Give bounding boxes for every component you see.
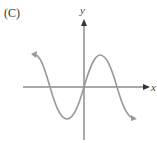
x-axis-arrow-icon — [143, 84, 150, 90]
x-axis-label: x — [150, 81, 156, 93]
y-axis-arrow-icon — [81, 19, 87, 26]
curve-left-arrow-icon — [31, 51, 37, 58]
chart-area: y x — [0, 0, 157, 143]
curve-right-arrow-icon — [131, 115, 137, 121]
y-axis-label: y — [79, 4, 85, 16]
